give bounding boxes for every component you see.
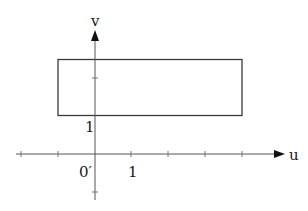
v-axis-label: v <box>90 12 100 30</box>
u-axis-arrow-icon <box>274 150 285 158</box>
v-axis-arrow-icon <box>91 30 99 41</box>
origin-label: 0′ <box>79 163 93 181</box>
region-rectangle <box>58 60 242 116</box>
u-axis-label: u <box>289 146 299 164</box>
u-tick-label-1: 1 <box>128 163 138 181</box>
v-tick-label-1: 1 <box>85 118 95 136</box>
coordinate-diagram: v u 0′ 1 1 <box>0 0 308 211</box>
